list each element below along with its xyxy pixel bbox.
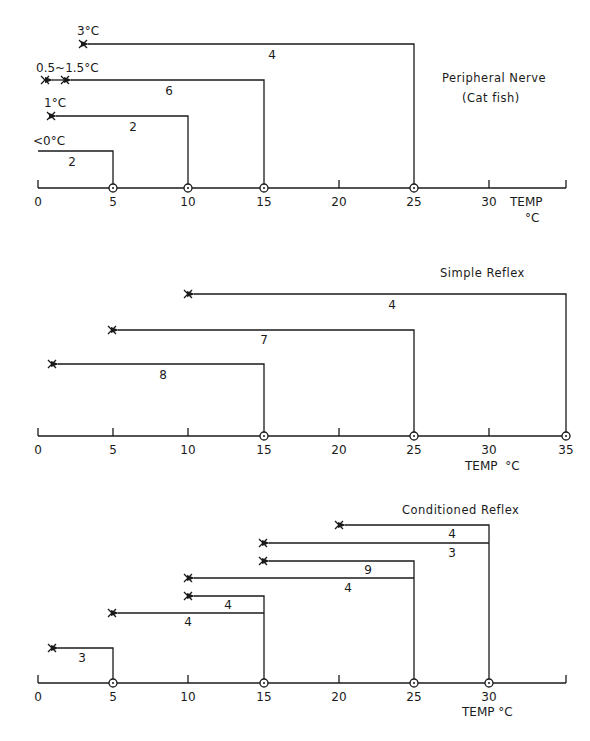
panel-peripheral-nerve [38, 40, 566, 192]
panel-3-text: 0 5 10 15 20 25 30 TEMP °C Conditioned R… [34, 503, 519, 719]
count-label: 3 [78, 651, 86, 665]
count-label: 4 [448, 527, 456, 541]
series-line [56, 116, 188, 188]
panel-subtitle: (Cat fish) [462, 91, 520, 105]
series-line [194, 294, 566, 436]
tick-label: 25 [406, 443, 421, 457]
tick-label: 5 [109, 690, 117, 704]
endpoint-label: 1°C [44, 96, 66, 110]
count-label: 8 [159, 368, 167, 382]
tick-label: 10 [180, 195, 195, 209]
tick-label: 15 [256, 195, 271, 209]
tick-label: 15 [256, 690, 271, 704]
tick-label: 10 [180, 690, 195, 704]
series-line [345, 525, 489, 683]
panel-1-text: 0 5 10 15 20 25 30 TEMP °C Peripheral Ne… [33, 24, 546, 225]
tick-label: 0 [34, 690, 42, 704]
series-line [269, 561, 414, 683]
count-label: 4 [344, 581, 352, 595]
figure: 0 5 10 15 20 25 30 TEMP °C Peripheral Ne… [0, 0, 590, 741]
tick-label: 0 [34, 195, 42, 209]
tick-label: 0 [34, 443, 42, 457]
count-label: 3 [448, 546, 456, 560]
tick-label: 20 [331, 195, 346, 209]
tick-label: 30 [481, 443, 496, 457]
count-label: 4 [184, 615, 192, 629]
panel-conditioned-reflex [38, 521, 566, 687]
count-label: 4 [268, 48, 276, 62]
count-label: 9 [364, 563, 372, 577]
panel-simple-reflex [38, 290, 570, 440]
x-axis-label: TEMP °C [461, 705, 513, 719]
x-marks [48, 290, 192, 368]
tick-label: 5 [109, 443, 117, 457]
tick-label: 5 [109, 195, 117, 209]
tick-label: 30 [481, 690, 496, 704]
panel-2-text: 0 5 10 15 20 25 30 35 TEMP °C Simple Ref… [34, 266, 573, 473]
x-axis-unit: °C [525, 211, 539, 225]
count-label: 4 [224, 598, 232, 612]
tick-label: 10 [180, 443, 195, 457]
tick-label: 25 [406, 195, 421, 209]
tick-label: 35 [558, 443, 573, 457]
panel-title: Peripheral Nerve [442, 71, 546, 85]
count-label: 2 [68, 155, 76, 169]
count-label: 6 [165, 84, 173, 98]
panel-title: Conditioned Reflex [402, 503, 519, 517]
x-marks [48, 521, 343, 652]
count-label: 4 [388, 298, 396, 312]
x-axis-label: TEMP °C [464, 459, 520, 473]
tick-label: 25 [406, 690, 421, 704]
endpoint-label: 0.5~1.5°C [36, 61, 99, 75]
tick-label: 30 [481, 195, 496, 209]
count-label: 2 [129, 120, 137, 134]
endpoint-label: 3°C [77, 24, 99, 38]
endpoint-label: <0°C [33, 134, 65, 148]
tick-label: 20 [331, 443, 346, 457]
tick-label: 15 [256, 443, 271, 457]
panel-title: Simple Reflex [440, 266, 525, 280]
x-axis-label: TEMP [509, 195, 543, 209]
count-label: 7 [260, 333, 268, 347]
tick-label: 20 [331, 690, 346, 704]
